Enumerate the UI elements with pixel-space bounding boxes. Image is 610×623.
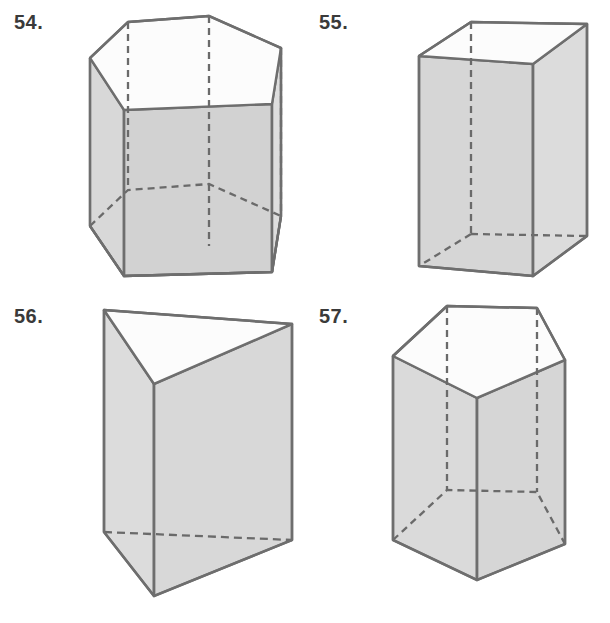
figure-cell-54: 54. bbox=[0, 0, 305, 300]
triangular-prism-56 bbox=[96, 296, 304, 608]
figure-number-54: 54. bbox=[14, 12, 43, 32]
hexagonal-prism-54 bbox=[82, 14, 304, 296]
face-front-right-55 bbox=[533, 24, 587, 276]
figure-number-57: 57. bbox=[319, 306, 348, 326]
worksheet-page: 54. bbox=[0, 0, 610, 623]
rectangular-prism-55 bbox=[409, 18, 599, 290]
figure-number-55: 55. bbox=[319, 12, 348, 32]
figure-cell-55: 55. bbox=[305, 0, 610, 300]
figure-cell-56: 56. bbox=[0, 300, 305, 623]
figure-cell-57: 57. bbox=[305, 300, 610, 623]
face-front-left-54 bbox=[124, 104, 272, 276]
figure-number-56: 56. bbox=[14, 306, 43, 326]
face-front-left-55 bbox=[419, 56, 533, 276]
pentagonal-prism-57 bbox=[385, 298, 593, 616]
